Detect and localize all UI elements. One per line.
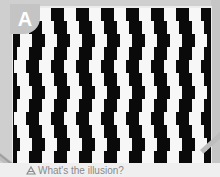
illusion-tile (17, 47, 30, 60)
illusion-tile (51, 8, 64, 21)
illusion-tile (117, 73, 130, 86)
illusion-tile (167, 21, 180, 34)
illusion-tile (154, 73, 167, 86)
illusion-tile (204, 125, 211, 138)
illusion-tile (64, 8, 77, 21)
illusion-tile (179, 125, 192, 138)
illusion-tile (167, 47, 180, 60)
illusion-tile (29, 73, 42, 86)
illusion-row (13, 60, 211, 73)
illusion-tile (95, 86, 108, 99)
illusion-tile (204, 21, 211, 34)
illusion-tile (117, 47, 130, 60)
illusion-tile (204, 99, 211, 112)
illusion-tile (82, 86, 95, 99)
illusion-tile (92, 73, 105, 86)
illusion-tile (14, 112, 27, 125)
illusion-tile (192, 73, 205, 86)
illusion-tile (120, 138, 133, 151)
illusion-tile (132, 86, 145, 99)
illusion-tile (104, 99, 117, 112)
illusion-tile (76, 112, 89, 125)
illusion-tile (101, 60, 114, 73)
illusion-tile (201, 60, 211, 73)
illusion-tile (164, 112, 177, 125)
illusion-tile (170, 34, 183, 47)
illusion-tile (104, 73, 117, 86)
illusion-tile (195, 34, 208, 47)
illusion-tile (157, 138, 170, 151)
illusion-tile (151, 8, 164, 21)
illusion-tile (157, 86, 170, 99)
illusion-tile (17, 73, 30, 86)
illusion-tile (204, 73, 211, 86)
illusion-tile (129, 73, 142, 86)
illusion-tile (120, 34, 133, 47)
illusion-tile (39, 60, 52, 73)
illusion-tile (89, 112, 102, 125)
illusion-tile (126, 60, 139, 73)
right-edge (211, 0, 220, 177)
illusion-tile (207, 34, 211, 47)
illusion-tile (42, 99, 55, 112)
illusion-tile (182, 138, 195, 151)
illusion-tile (76, 8, 89, 21)
illusion-tile (176, 112, 189, 125)
illusion-tile (82, 34, 95, 47)
illusion-tile (57, 34, 70, 47)
illusion-tile (139, 112, 152, 125)
illusion-tile (145, 86, 158, 99)
illusion-tile (117, 99, 130, 112)
illusion-tile (64, 60, 77, 73)
illusion-tile (126, 8, 139, 21)
illusion-row (13, 86, 211, 99)
illusion-tile (17, 125, 30, 138)
illusion-tile (26, 112, 39, 125)
illusion-tile (201, 8, 211, 21)
illusion-tile (151, 112, 164, 125)
illusion-tile (101, 112, 114, 125)
illusion-tile (179, 99, 192, 112)
illusion-tile (32, 138, 45, 151)
illusion-tile (189, 8, 202, 21)
illusion-tile (145, 138, 158, 151)
illusion-tile (142, 73, 155, 86)
illusion-tile (207, 86, 211, 99)
illusion-tile (129, 99, 142, 112)
illusion-row (13, 125, 211, 138)
pencil-icon (26, 165, 36, 175)
illusion-tile (95, 138, 108, 151)
illusion-tile (129, 21, 142, 34)
illusion-tile (45, 34, 58, 47)
illusion-tile (129, 125, 142, 138)
illusion-tile (42, 21, 55, 34)
illusion-tile (20, 138, 33, 151)
illusion-tile (192, 125, 205, 138)
illusion-row (13, 8, 211, 21)
caption-text: What's the illusion? (38, 165, 124, 176)
illusion-tile (142, 47, 155, 60)
illusion-tile (42, 73, 55, 86)
illusion-tile (79, 73, 92, 86)
illusion-tile (70, 138, 83, 151)
illusion-row (13, 99, 211, 112)
illusion-tile (139, 8, 152, 21)
illusion-tile (95, 34, 108, 47)
illusion-tile (179, 21, 192, 34)
illusion-tile (170, 138, 183, 151)
illusion-tile (167, 125, 180, 138)
illusion-tile (67, 21, 80, 34)
illusion-tile (54, 21, 67, 34)
illusion-tile (67, 125, 80, 138)
figure-label: A (18, 8, 32, 31)
illusion-tile (67, 73, 80, 86)
illusion-tile (114, 8, 127, 21)
illusion-tile (139, 60, 152, 73)
illusion-tile (79, 99, 92, 112)
illusion-tile (29, 99, 42, 112)
illusion-tile (26, 60, 39, 73)
illusion-tile (167, 99, 180, 112)
illusion-tile (14, 60, 27, 73)
illusion-tile (54, 47, 67, 60)
illusion-tile (164, 60, 177, 73)
